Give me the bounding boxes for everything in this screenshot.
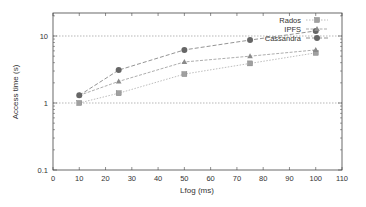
- legend-label: IPFS: [284, 25, 301, 34]
- triangle-marker-icon: [116, 78, 122, 83]
- square-marker-icon: [116, 91, 121, 96]
- circle-marker-icon: [181, 47, 187, 53]
- x-axis-label: Lfog (ms): [180, 186, 214, 195]
- grid-lines: [53, 36, 342, 103]
- x-tick-label: 90: [285, 174, 293, 183]
- x-tick-label: 50: [180, 174, 188, 183]
- y-tick-label: 10: [40, 32, 48, 41]
- square-marker-icon: [315, 18, 320, 23]
- y-tick-label: 0.1: [38, 166, 48, 175]
- legend-label: Rados: [279, 16, 301, 25]
- circle-marker-icon: [116, 67, 122, 73]
- triangle-marker-icon: [182, 59, 188, 64]
- x-tick-label: 100: [309, 174, 322, 183]
- triangle-marker-icon: [313, 47, 319, 52]
- x-tick-label: 20: [101, 174, 109, 183]
- square-marker-icon: [248, 61, 253, 66]
- circle-marker-icon: [247, 37, 253, 43]
- series-rados: [77, 50, 318, 105]
- circle-marker-icon: [76, 92, 82, 98]
- y-axis-label: Access time (s): [11, 64, 20, 119]
- x-tick-label: 40: [154, 174, 162, 183]
- square-marker-icon: [182, 72, 187, 77]
- square-marker-icon: [77, 101, 82, 106]
- x-tick-label: 0: [51, 174, 55, 183]
- y-tick-label: 1: [44, 99, 48, 108]
- line-chart: 01020304050607080901001100.1110 RadosIPF…: [0, 0, 366, 207]
- x-tick-label: 80: [259, 174, 267, 183]
- axes: 01020304050607080901001100.1110: [38, 13, 348, 183]
- x-tick-label: 70: [233, 174, 241, 183]
- x-tick-label: 30: [128, 174, 136, 183]
- x-tick-label: 10: [75, 174, 83, 183]
- legend-label: Cassandra: [265, 34, 302, 43]
- x-tick-label: 60: [206, 174, 214, 183]
- x-tick-label: 110: [336, 174, 348, 183]
- legend: RadosIPFSCassandra: [265, 16, 328, 43]
- series-ipfs: [76, 47, 318, 97]
- circle-marker-icon: [314, 35, 320, 41]
